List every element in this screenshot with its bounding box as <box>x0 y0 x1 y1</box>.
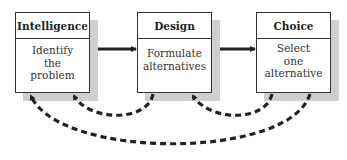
feedback-design-to-intelligence <box>74 94 153 115</box>
feedback-choice-to-design <box>193 94 272 115</box>
feedback-choice-to-intelligence <box>31 94 310 144</box>
diagram-arrows <box>0 0 347 160</box>
